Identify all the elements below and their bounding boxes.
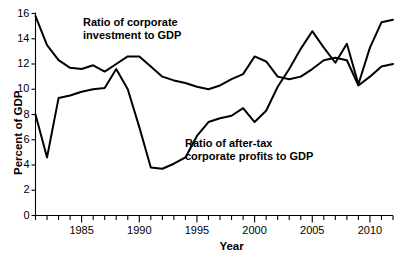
x-axis-tick-label: 2005 — [292, 224, 332, 236]
chart-plot-area — [0, 0, 405, 260]
chart-container: 0246810121416 198519901995200020052010 P… — [0, 0, 405, 260]
x-axis-tick-label: 1990 — [119, 224, 159, 236]
annotation-after-tax-profits: Ratio of after-taxcorporate profits to G… — [185, 137, 313, 163]
x-axis-title: Year — [202, 240, 262, 252]
annotation-profits-line1: Ratio of after-tax — [185, 137, 272, 149]
y-axis-tick-label: 12 — [8, 57, 30, 69]
x-axis-tick-label: 1985 — [62, 224, 102, 236]
annotation-corporate-investment: Ratio of corporateinvestment to GDP — [83, 16, 181, 42]
y-axis-tick-label: 2 — [8, 183, 30, 195]
y-axis-title: Percent of GDP — [12, 91, 24, 175]
annotation-investment-line1: Ratio of corporate — [83, 16, 178, 28]
annotation-investment-line2: investment to GDP — [83, 29, 181, 41]
y-axis-tick-label: 14 — [8, 32, 30, 44]
y-axis-tick-label: 0 — [8, 209, 30, 221]
annotation-profits-line2: corporate profits to GDP — [185, 150, 313, 162]
x-axis-tick-label: 1995 — [177, 224, 217, 236]
x-axis-tick-label: 2010 — [350, 224, 390, 236]
y-axis-tick-label: 16 — [8, 7, 30, 19]
x-axis-ticks — [36, 216, 394, 223]
x-axis-tick-label: 2000 — [235, 224, 275, 236]
